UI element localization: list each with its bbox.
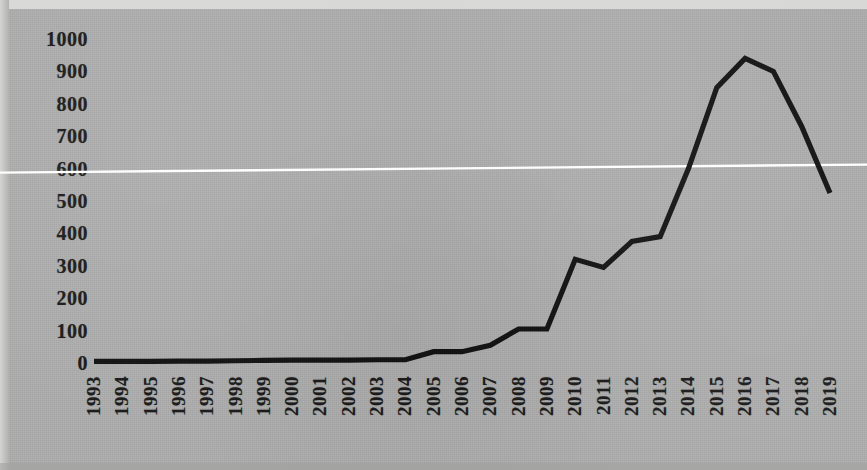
x-tick-label-2006: 2006	[454, 376, 470, 440]
x-tick-label-2016: 2016	[737, 376, 753, 440]
x-tick-label-2011: 2011	[596, 376, 612, 440]
x-tick-label-1995: 1995	[143, 376, 159, 440]
x-tick-label-2003: 2003	[369, 376, 385, 440]
x-tick-label-2007: 2007	[482, 376, 498, 440]
x-tick-label-2004: 2004	[397, 376, 413, 440]
x-tick-label-2009: 2009	[539, 376, 555, 440]
x-tick-label-2002: 2002	[341, 376, 357, 440]
x-tick-label-1997: 1997	[199, 376, 215, 440]
x-tick-label-2017: 2017	[765, 376, 781, 440]
chart-figure: 10009008007006005004003002001000 1993199…	[0, 0, 867, 470]
x-tick-label-2005: 2005	[426, 376, 442, 440]
x-tick-label-2014: 2014	[680, 376, 696, 440]
x-tick-label-2001: 2001	[312, 376, 328, 440]
x-tick-label-2000: 2000	[284, 376, 300, 440]
x-tick-label-2012: 2012	[624, 376, 640, 440]
x-tick-label-1994: 1994	[114, 376, 130, 440]
x-axis-tick-labels: 1993199419951996199719981999200020012002…	[0, 0, 867, 470]
x-tick-label-2010: 2010	[567, 376, 583, 440]
x-tick-label-2008: 2008	[511, 376, 527, 440]
x-tick-label-1993: 1993	[86, 376, 102, 440]
x-tick-label-1998: 1998	[228, 376, 244, 440]
x-tick-label-2018: 2018	[794, 376, 810, 440]
x-tick-label-1996: 1996	[171, 376, 187, 440]
x-tick-label-2019: 2019	[822, 376, 838, 440]
x-tick-label-2013: 2013	[652, 376, 668, 440]
x-tick-label-2015: 2015	[709, 376, 725, 440]
x-tick-label-1999: 1999	[256, 376, 272, 440]
